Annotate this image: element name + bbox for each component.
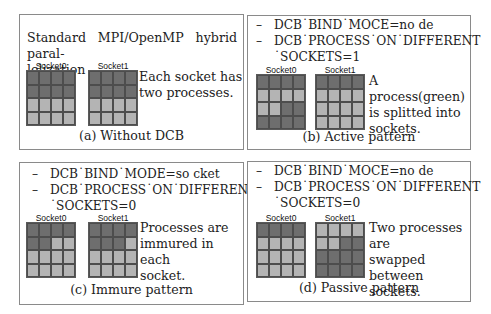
core-cell-dark bbox=[340, 264, 352, 278]
core-cell-light bbox=[89, 250, 101, 264]
core-cell-dark bbox=[352, 250, 364, 264]
core-cell-dark bbox=[39, 85, 51, 99]
core-cell-light bbox=[281, 250, 293, 264]
core-cell-light bbox=[51, 237, 63, 251]
core-cell-dark bbox=[281, 75, 293, 89]
core-cell-light bbox=[89, 264, 101, 278]
core-cell-dark bbox=[281, 116, 293, 130]
core-grid bbox=[256, 222, 306, 278]
description: Processes are immured in each socket. bbox=[140, 220, 243, 284]
core-cell-light bbox=[257, 250, 269, 264]
socket-1: Socket1 bbox=[88, 62, 138, 126]
core-cell-dark bbox=[51, 71, 63, 85]
option-text: DCB˙PROCESS˙ON˙DIFFERENT bbox=[50, 182, 256, 198]
core-cell-dark bbox=[101, 85, 113, 99]
core-cell-dark bbox=[328, 75, 340, 89]
socket-0: Socket0 bbox=[26, 214, 76, 278]
description-line: Each socket has bbox=[139, 69, 242, 85]
core-cell-light bbox=[352, 223, 364, 237]
core-cell-light bbox=[328, 223, 340, 237]
core-cell-light bbox=[101, 250, 113, 264]
option-text: DCB˙BIND˙MOCE=no de bbox=[274, 163, 433, 179]
core-cell-dark bbox=[269, 223, 281, 237]
core-cell-dark bbox=[27, 85, 39, 99]
core-cell-dark bbox=[352, 264, 364, 278]
core-cell-light bbox=[89, 112, 101, 126]
core-cell-dark bbox=[27, 223, 39, 237]
panel-without-dcb: Standard MPI/OpenMP hybrid paral- leliza… bbox=[19, 14, 244, 150]
core-cell-dark bbox=[269, 75, 281, 89]
core-cell-dark bbox=[63, 85, 75, 99]
core-cell-dark bbox=[316, 250, 328, 264]
core-cell-light bbox=[89, 98, 101, 112]
core-cell-dark bbox=[89, 237, 101, 251]
core-cell-light bbox=[39, 264, 51, 278]
core-cell-light bbox=[257, 264, 269, 278]
core-cell-dark bbox=[316, 264, 328, 278]
core-cell-dark bbox=[27, 237, 39, 251]
core-grid bbox=[315, 222, 365, 278]
panel-immure-pattern: –DCB˙BIND˙MODE=so cket –DCB˙PROCESS˙ON˙D… bbox=[19, 162, 244, 305]
core-cell-light bbox=[27, 264, 39, 278]
core-cell-light bbox=[316, 116, 328, 130]
core-cell-light bbox=[125, 237, 137, 251]
socket-label: Socket0 bbox=[26, 62, 76, 70]
core-cell-dark bbox=[328, 250, 340, 264]
core-cell-dark bbox=[101, 223, 113, 237]
core-cell-dark bbox=[89, 223, 101, 237]
socket-0: Socket0 bbox=[256, 66, 306, 130]
core-cell-dark bbox=[39, 223, 51, 237]
option-text: DCB˙PROCESS˙ON˙DIFFERENT bbox=[274, 33, 480, 49]
description-line: is splitted into bbox=[369, 105, 470, 121]
caption: (d) Passive pattern bbox=[248, 280, 470, 295]
core-cell-light bbox=[340, 102, 352, 116]
core-cell-light bbox=[101, 112, 113, 126]
core-cell-dark bbox=[293, 75, 305, 89]
core-cell-light bbox=[293, 264, 305, 278]
socket-1: Socket1 bbox=[315, 214, 365, 278]
core-cell-light bbox=[125, 264, 137, 278]
caption: (a) Without DCB bbox=[20, 128, 243, 143]
core-cell-light bbox=[257, 102, 269, 116]
core-cell-light bbox=[269, 264, 281, 278]
core-cell-light bbox=[316, 223, 328, 237]
core-cell-light bbox=[39, 112, 51, 126]
core-cell-light bbox=[269, 250, 281, 264]
core-cell-light bbox=[340, 89, 352, 103]
description-line: Processes are bbox=[140, 220, 243, 236]
socket-label: Socket0 bbox=[256, 66, 306, 74]
socket-1: Socket1 bbox=[88, 214, 138, 278]
core-cell-dark bbox=[63, 223, 75, 237]
core-cell-dark bbox=[63, 71, 75, 85]
core-cell-light bbox=[328, 89, 340, 103]
core-cell-dark bbox=[113, 85, 125, 99]
core-cell-light bbox=[281, 89, 293, 103]
core-cell-light bbox=[63, 264, 75, 278]
option-text: DCB˙BIND˙MOCE=no de bbox=[274, 17, 433, 33]
bullet: – bbox=[256, 17, 274, 33]
socket-label: Socket1 bbox=[88, 214, 138, 222]
core-cell-light bbox=[269, 237, 281, 251]
option-item: –DCB˙PROCESS˙ON˙DIFFERENT bbox=[256, 179, 480, 195]
core-cell-light bbox=[293, 89, 305, 103]
core-cell-dark bbox=[113, 223, 125, 237]
description: A process(green) is splitted into socket… bbox=[369, 73, 470, 137]
socket-label: Socket0 bbox=[256, 214, 306, 222]
core-cell-light bbox=[328, 237, 340, 251]
core-cell-dark bbox=[340, 75, 352, 89]
core-cell-light bbox=[27, 98, 39, 112]
core-cell-light bbox=[257, 237, 269, 251]
core-cell-dark bbox=[89, 71, 101, 85]
socket-label: Socket0 bbox=[26, 214, 76, 222]
core-grid bbox=[256, 74, 306, 130]
core-cell-light bbox=[316, 89, 328, 103]
core-cell-light bbox=[113, 264, 125, 278]
bullet: – bbox=[256, 163, 274, 179]
description-line: A process(green) bbox=[369, 73, 470, 105]
core-cell-dark bbox=[352, 75, 364, 89]
description-line: Two processes are bbox=[369, 220, 470, 252]
core-cell-light bbox=[352, 116, 364, 130]
core-cell-dark bbox=[125, 223, 137, 237]
intro-line-1: Standard MPI/OpenMP hybrid paral- bbox=[27, 30, 237, 61]
core-cell-light bbox=[63, 237, 75, 251]
